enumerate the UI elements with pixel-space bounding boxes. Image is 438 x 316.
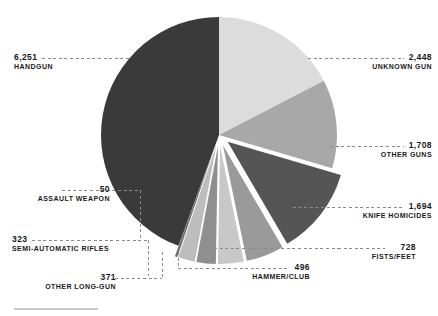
callout-unknown-gun-value: 2,448 [372,52,432,62]
callout-unknown-gun-label: UNKNOWN GUN [372,62,432,71]
callout-other-guns-label: OTHER GUNS [381,150,432,159]
callout-knife-label: KNIFE HOMICIDES [363,211,432,220]
footer-rule [14,308,98,310]
callout-semi-auto-value: 323 [12,234,109,244]
callout-other-long-gun: 371 OTHER LONG-GUN [18,272,116,291]
callout-fists-feet-value: 728 [372,242,416,252]
callout-other-guns: 1,708 OTHER GUNS [381,140,432,159]
callout-knife-value: 1,694 [363,201,432,211]
callout-knife: 1,694 KNIFE HOMICIDES [363,201,432,220]
callout-handgun: 6,251 HANDGUN [14,52,53,71]
callout-other-guns-value: 1,708 [381,140,432,150]
callout-handgun-value: 6,251 [14,52,53,62]
callout-semi-auto-label: SEMI-AUTOMATIC RIFLES [12,244,109,253]
callout-hammer-club: 496 HAMMER/CLUB [196,262,310,281]
callout-other-long-gun-label: OTHER LONG-GUN [18,282,116,291]
callout-assault-weapon: 50 ASSAULT WEAPON [24,184,110,203]
callout-fists-feet: 728 FISTS/FEET [372,242,416,261]
callout-hammer-club-label: HAMMER/CLUB [196,272,310,281]
callout-assault-weapon-value: 50 [24,184,110,194]
callout-fists-feet-label: FISTS/FEET [372,252,416,261]
callout-hammer-club-value: 496 [196,262,310,272]
callout-other-long-gun-value: 371 [18,272,116,282]
callout-assault-weapon-label: ASSAULT WEAPON [24,194,110,203]
callout-semi-auto: 323 SEMI-AUTOMATIC RIFLES [12,234,109,253]
pie-chart: 6,251 HANDGUN 2,448 UNKNOWN GUN 1,708 OT… [0,0,438,316]
callout-unknown-gun: 2,448 UNKNOWN GUN [372,52,432,71]
callout-handgun-label: HANDGUN [14,62,53,71]
